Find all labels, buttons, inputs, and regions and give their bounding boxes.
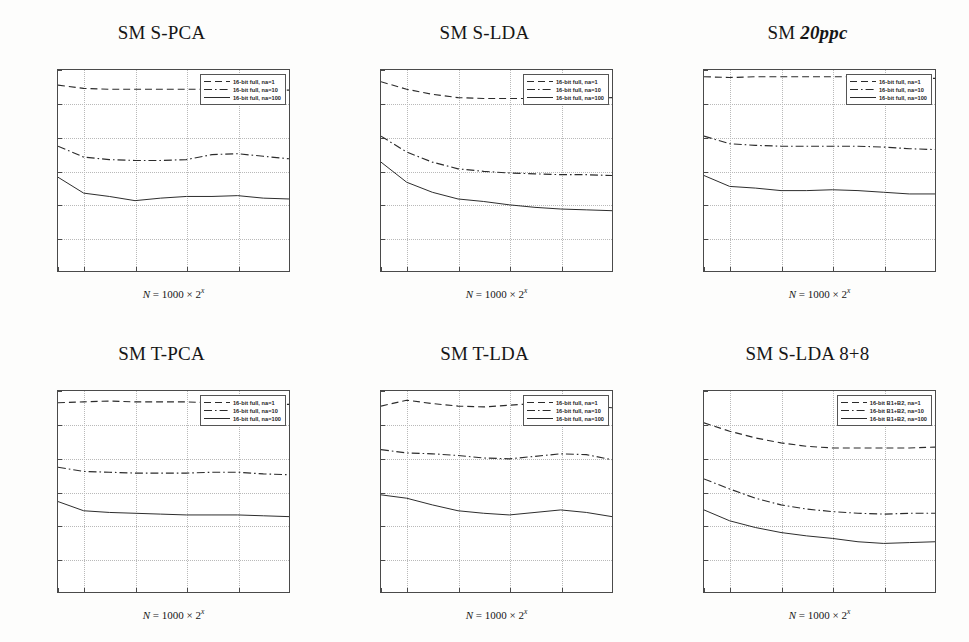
x-axis-label: N = 1000 × 2x xyxy=(380,607,613,621)
legend-item: 16-bit B1+B2, na=10 xyxy=(841,407,927,414)
legend-line-swatch xyxy=(204,407,230,414)
axes: Guessing entropy (bits)12108642012468101… xyxy=(323,48,646,308)
panel-grid: SM S-PCAGuessing entropy (bits)121086420… xyxy=(0,0,969,642)
legend-label: 16-bit full, na=1 xyxy=(879,79,921,85)
legend-line-swatch xyxy=(841,415,867,422)
chart-panel: SM 20ppcGuessing entropy (bits)121086420… xyxy=(646,0,969,321)
figure-six-panel-guessing-entropy: SM S-PCAGuessing entropy (bits)121086420… xyxy=(0,0,969,642)
data-series-line xyxy=(704,423,935,448)
legend-label: 16-bit B1+B2, na=10 xyxy=(870,408,924,414)
legend-item: 16-bit full, na=100 xyxy=(527,94,604,101)
x-axis-label: N = 1000 × 2x xyxy=(57,607,290,621)
legend-label: 16-bit B1+B2, na=1 xyxy=(870,400,921,406)
legend-label: 16-bit full, na=1 xyxy=(233,400,275,406)
x-axis-label: N = 1000 × 2x xyxy=(380,286,613,300)
panel-title: SM 20ppc xyxy=(646,22,969,44)
data-series-line xyxy=(58,146,289,160)
chart-panel: SM T-LDAGuessing entropy (bits)121086420… xyxy=(323,321,646,642)
panel-title: SM T-PCA xyxy=(0,343,323,365)
plot-area: 121086420124681016-bit full, na=116-bit … xyxy=(57,69,290,272)
data-series-line xyxy=(704,176,935,194)
legend-label: 16-bit full, na=1 xyxy=(556,400,598,406)
plot-area: 121086420124681016-bit full, na=116-bit … xyxy=(703,69,936,272)
x-axis-label: N = 1000 × 2x xyxy=(703,286,936,300)
legend-line-swatch xyxy=(204,94,230,101)
axes: Guessing entropy (bits)12108642012468101… xyxy=(0,48,323,308)
legend: 16-bit full, na=116-bit full, na=1016-bi… xyxy=(523,395,609,426)
legend-item: 16-bit full, na=1 xyxy=(204,399,281,406)
legend-item: 16-bit B1+B2, na=1 xyxy=(841,399,927,406)
x-axis-label: N = 1000 × 2x xyxy=(703,607,936,621)
legend-line-swatch xyxy=(204,86,230,93)
panel-title: SM S-PCA xyxy=(0,22,323,44)
legend-label: 16-bit full, na=100 xyxy=(556,95,604,101)
data-series-line xyxy=(58,177,289,200)
legend-label: 16-bit full, na=100 xyxy=(556,416,604,422)
legend-item: 16-bit full, na=1 xyxy=(204,78,281,85)
plot-area: 121086420124681016-bit full, na=116-bit … xyxy=(57,390,290,593)
legend-line-swatch xyxy=(841,399,867,406)
legend-line-swatch xyxy=(527,94,553,101)
legend-item: 16-bit full, na=10 xyxy=(850,86,927,93)
legend-line-swatch xyxy=(850,78,876,85)
legend-line-swatch xyxy=(204,415,230,422)
data-series-line xyxy=(704,510,935,543)
legend-label: 16-bit full, na=10 xyxy=(556,87,601,93)
data-series-line xyxy=(381,162,612,211)
data-series-line xyxy=(58,467,289,475)
data-series-line xyxy=(381,495,612,517)
legend: 16-bit full, na=116-bit full, na=1016-bi… xyxy=(846,74,932,105)
legend-label: 16-bit B1+B2, na=100 xyxy=(870,416,927,422)
legend-line-swatch xyxy=(527,399,553,406)
chart-panel: SM S-PCAGuessing entropy (bits)121086420… xyxy=(0,0,323,321)
data-series-line xyxy=(704,479,935,514)
panel-title: SM S-LDA 8+8 xyxy=(646,343,969,365)
plot-area: 121086420124681016-bit full, na=116-bit … xyxy=(380,390,613,593)
legend-item: 16-bit full, na=10 xyxy=(527,86,604,93)
legend-item: 16-bit full, na=100 xyxy=(204,94,281,101)
legend: 16-bit B1+B2, na=116-bit B1+B2, na=1016-… xyxy=(837,395,932,426)
data-series-line xyxy=(704,136,935,149)
legend-line-swatch xyxy=(850,86,876,93)
plot-area: 121086420124681016-bit full, na=116-bit … xyxy=(380,69,613,272)
data-series-line xyxy=(58,502,289,517)
data-series-line xyxy=(381,136,612,175)
chart-panel: SM S-LDA 8+8Guessing entropy (bits)12108… xyxy=(646,321,969,642)
legend-item: 16-bit full, na=10 xyxy=(204,407,281,414)
legend-item: 16-bit full, na=10 xyxy=(204,86,281,93)
legend-label: 16-bit full, na=100 xyxy=(879,95,927,101)
legend-label: 16-bit full, na=1 xyxy=(556,79,598,85)
legend-line-swatch xyxy=(850,94,876,101)
axes: Guessing entropy (bits)12108642012468101… xyxy=(646,369,969,629)
plot-area: 121086420124681016-bit B1+B2, na=116-bit… xyxy=(703,390,936,593)
legend-item: 16-bit full, na=100 xyxy=(527,415,604,422)
legend: 16-bit full, na=116-bit full, na=1016-bi… xyxy=(200,74,286,105)
axes: Guessing entropy (bits)12108642012468101… xyxy=(323,369,646,629)
legend-label: 16-bit full, na=10 xyxy=(233,408,278,414)
chart-panel: SM S-LDAGuessing entropy (bits)121086420… xyxy=(323,0,646,321)
legend-label: 16-bit full, na=100 xyxy=(233,416,281,422)
axes: Guessing entropy (bits)12108642012468101… xyxy=(646,48,969,308)
legend-label: 16-bit full, na=10 xyxy=(879,87,924,93)
legend-item: 16-bit full, na=100 xyxy=(204,415,281,422)
legend-line-swatch xyxy=(527,78,553,85)
legend-item: 16-bit full, na=1 xyxy=(527,78,604,85)
x-axis-label: N = 1000 × 2x xyxy=(57,286,290,300)
legend-line-swatch xyxy=(204,399,230,406)
panel-title: SM S-LDA xyxy=(323,22,646,44)
legend-line-swatch xyxy=(527,415,553,422)
axes: Guessing entropy (bits)12108642012468101… xyxy=(0,369,323,629)
data-series-line xyxy=(381,450,612,460)
legend-item: 16-bit full, na=1 xyxy=(850,78,927,85)
legend-item: 16-bit full, na=10 xyxy=(527,407,604,414)
legend-item: 16-bit B1+B2, na=100 xyxy=(841,415,927,422)
legend: 16-bit full, na=116-bit full, na=1016-bi… xyxy=(523,74,609,105)
legend: 16-bit full, na=116-bit full, na=1016-bi… xyxy=(200,395,286,426)
legend-line-swatch xyxy=(841,407,867,414)
legend-line-swatch xyxy=(527,407,553,414)
legend-item: 16-bit full, na=1 xyxy=(527,399,604,406)
panel-title: SM T-LDA xyxy=(323,343,646,365)
legend-label: 16-bit full, na=10 xyxy=(556,408,601,414)
chart-panel: SM T-PCAGuessing entropy (bits)121086420… xyxy=(0,321,323,642)
legend-label: 16-bit full, na=10 xyxy=(233,87,278,93)
